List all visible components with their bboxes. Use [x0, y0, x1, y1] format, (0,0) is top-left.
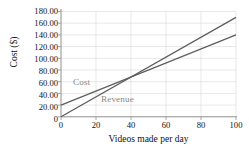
- x-tick-label: 40: [118, 121, 144, 130]
- x-tick-label: 80: [188, 121, 214, 130]
- x-tick-label: 20: [83, 121, 109, 130]
- x-tick-label: 0: [48, 121, 74, 130]
- series-label-revenue: Revenue: [101, 94, 134, 104]
- x-tick-label: 100: [223, 121, 249, 130]
- series-label-cost: Cost: [73, 77, 90, 87]
- x-tick-label: 60: [153, 121, 179, 130]
- x-axis-title: Videos made per day: [61, 134, 236, 144]
- x-axis-tick-labels: 0 20 40 60 80 100: [0, 0, 249, 152]
- chart-container: Cost ($) 180.00 160.00 140.00 120.00 100…: [0, 0, 249, 152]
